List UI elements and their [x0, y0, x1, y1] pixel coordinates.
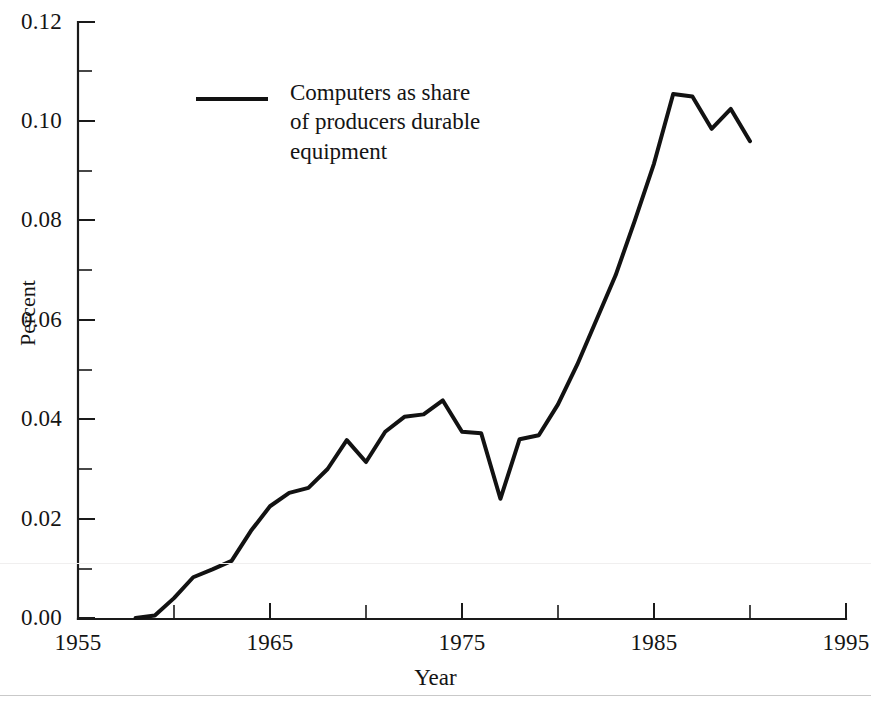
y-tick-label-0.04: 0.04: [0, 406, 62, 432]
faint-horizontal-rule: [0, 563, 871, 564]
chart-figure: 0.12 0.10 0.08 0.06 0.04 0.02 0.00 1955 …: [0, 0, 871, 704]
legend-label-line-3: equipment: [290, 137, 480, 166]
series-line-computers-share: [136, 94, 750, 618]
x-tick-label-1975: 1975: [412, 630, 512, 656]
x-tick-label-1955: 1955: [28, 630, 128, 656]
y-axis-major-ticks: [78, 22, 95, 618]
x-tick-label-1985: 1985: [604, 630, 704, 656]
chart-legend: Computers as share of producers durable …: [196, 78, 480, 166]
y-tick-label-0.00: 0.00: [0, 605, 62, 631]
x-axis-major-ticks: [78, 603, 846, 619]
legend-label-line-1: Computers as share: [290, 78, 480, 107]
x-axis-title: Year: [0, 665, 871, 691]
x-tick-label-1995: 1995: [796, 630, 871, 656]
y-tick-label-0.10: 0.10: [0, 108, 62, 134]
x-tick-label-1965: 1965: [220, 630, 320, 656]
legend-label-line-2: of producers durable: [290, 107, 480, 136]
y-tick-label-0.12: 0.12: [0, 9, 62, 35]
y-tick-label-0.02: 0.02: [0, 506, 62, 532]
legend-entry-label: Computers as share of producers durable …: [290, 78, 480, 166]
y-axis-title: Percent: [15, 253, 41, 373]
legend-swatch-spacer: [196, 87, 268, 109]
figure-bottom-rule: [0, 695, 871, 696]
y-tick-label-0.08: 0.08: [0, 207, 62, 233]
